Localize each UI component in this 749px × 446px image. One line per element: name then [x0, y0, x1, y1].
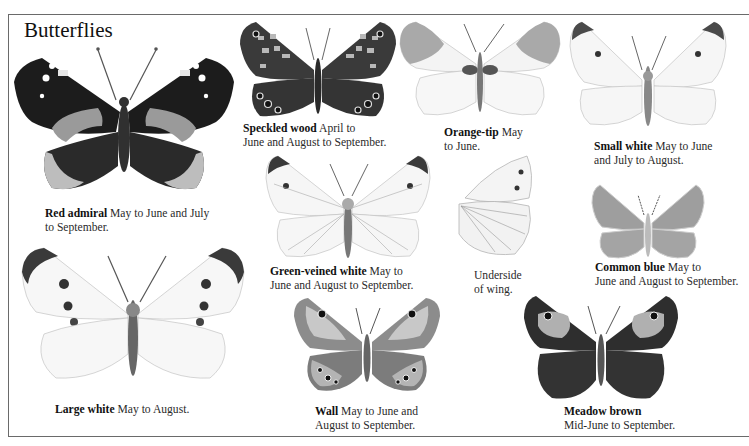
caption-small-white: Small white May to June and July to Augu… [594, 140, 744, 168]
speckled-wood-illustration [238, 16, 398, 120]
species-name: Red admiral [45, 207, 107, 220]
frame-left-rule [8, 14, 9, 437]
caption-common-blue: Common blue May to June and August to Se… [595, 261, 749, 289]
species-name: Wall [315, 405, 338, 418]
caption-underside-of-wing: Underside of wing. [474, 269, 544, 297]
frame-bottom-rule [8, 436, 749, 437]
wall-illustration [292, 294, 442, 394]
species-name: Common blue [595, 261, 665, 274]
small-white-illustration [568, 20, 728, 128]
caption-red-admiral: Red admiral May to June and July to Sept… [45, 207, 245, 235]
species-name: Orange-tip [444, 126, 499, 139]
caption-green-veined-white: Green-veined white May to June and Augus… [270, 265, 440, 293]
caption-large-white: Large white May to August. [55, 403, 245, 417]
underside-of-wing-illustration [455, 154, 535, 258]
species-name: Meadow brown [564, 405, 641, 418]
caption-speckled-wood: Speckled wood April to June and August t… [243, 122, 413, 150]
species-name: Speckled wood [243, 122, 317, 135]
meadow-brown-illustration [522, 294, 680, 402]
caption-wall: Wall May to June and August to September… [315, 405, 455, 433]
green-veined-white-illustration [264, 154, 432, 260]
species-name: Small white [594, 140, 652, 153]
common-blue-illustration [590, 183, 706, 261]
frame-top-rule [8, 14, 749, 15]
caption-orange-tip: Orange-tip May to June. [444, 126, 534, 154]
large-white-illustration [16, 244, 248, 380]
species-name: Large white [55, 403, 115, 416]
species-name: Green-veined white [270, 265, 367, 278]
orange-tip-illustration [396, 18, 564, 118]
page-title: Butterflies [24, 18, 113, 43]
red-admiral-illustration [12, 42, 236, 198]
caption-meadow-brown: Meadow brown Mid-June to September. [564, 405, 724, 433]
